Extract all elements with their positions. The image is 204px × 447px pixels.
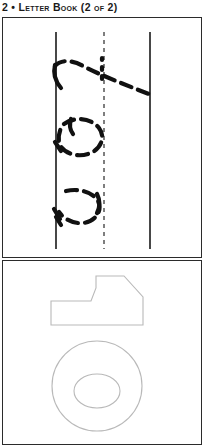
- practice-guides-and-strokes: [3, 18, 201, 257]
- arrow-polygon-shape: [51, 276, 143, 325]
- running-head: 2 • Letter Book (2 of 2): [2, 0, 202, 15]
- trace-stroke-2: [55, 119, 102, 155]
- worksheet-page: 2 • Letter Book (2 of 2): [0, 0, 204, 447]
- shapes-panel: [2, 260, 202, 445]
- handwriting-practice-panel: [2, 17, 202, 258]
- trace-stroke-3: [54, 190, 100, 225]
- ring-inner-ellipse: [74, 374, 120, 408]
- trace-stroke-1: [54, 58, 149, 94]
- ring-annulus-shape: [52, 341, 142, 431]
- outline-shapes: [3, 261, 201, 444]
- ring-outer-circle: [52, 341, 142, 431]
